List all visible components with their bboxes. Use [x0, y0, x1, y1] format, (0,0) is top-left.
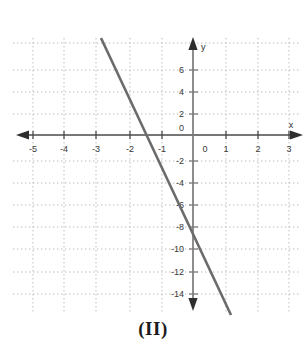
- y-tick-label--4: -4: [176, 178, 184, 188]
- x-tick-label-0: 0: [202, 144, 207, 154]
- y-tick-label-2: 2: [179, 109, 184, 119]
- x-tick-label--5: -5: [29, 144, 37, 154]
- graph-figure: -5 -4 -3 -2 -1 0 1 2 3 6 4 2 0 -2 -4 -6 …: [0, 0, 306, 355]
- x-tick-label--4: -4: [60, 144, 68, 154]
- x-axis: [16, 130, 303, 139]
- y-tick-label--10: -10: [171, 244, 184, 254]
- y-axis-arrow-down: [188, 298, 197, 311]
- figure-caption: (II): [0, 318, 306, 340]
- y-axis-label: y: [201, 42, 206, 52]
- x-axis-arrow-left: [16, 130, 29, 139]
- y-tick-label-0: 0: [179, 123, 184, 133]
- y-tick-labels: 6 4 2 0 -2 -4 -6 -8 -10 -12 -14: [171, 65, 184, 299]
- y-tick-label--14: -14: [171, 289, 184, 299]
- coordinate-plane-plot: -5 -4 -3 -2 -1 0 1 2 3 6 4 2 0 -2 -4 -6 …: [0, 0, 306, 355]
- x-tick-label--3: -3: [92, 144, 100, 154]
- x-tick-label-1: 1: [223, 144, 228, 154]
- y-tick-label--8: -8: [176, 222, 184, 232]
- horizontal-gridlines: [13, 43, 299, 294]
- x-axis-arrow-right: [290, 130, 303, 139]
- x-tick-labels: -5 -4 -3 -2 -1 0 1 2 3: [29, 144, 292, 154]
- x-tick-label--1: -1: [158, 144, 166, 154]
- x-tick-label-2: 2: [255, 144, 260, 154]
- y-tick-label--2: -2: [176, 156, 184, 166]
- plotted-line-series: [101, 38, 231, 315]
- y-axis: [188, 37, 198, 311]
- x-tick-label-3: 3: [286, 144, 291, 154]
- y-tick-label--12: -12: [171, 267, 184, 277]
- y-tick-label-6: 6: [179, 65, 184, 75]
- x-tick-label--2: -2: [126, 144, 134, 154]
- x-axis-label: x: [289, 120, 294, 130]
- y-tick-label-4: 4: [179, 87, 184, 97]
